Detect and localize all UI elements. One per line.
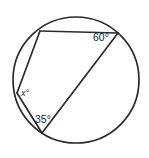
angle-label-35: 35° [35,113,51,125]
angle-label-x: x° [20,88,30,98]
geometry-canvas: 60° x° 35° [0,0,149,158]
angle-label-60: 60° [93,31,109,43]
geometry-figure: 60° x° 35° [0,0,149,158]
